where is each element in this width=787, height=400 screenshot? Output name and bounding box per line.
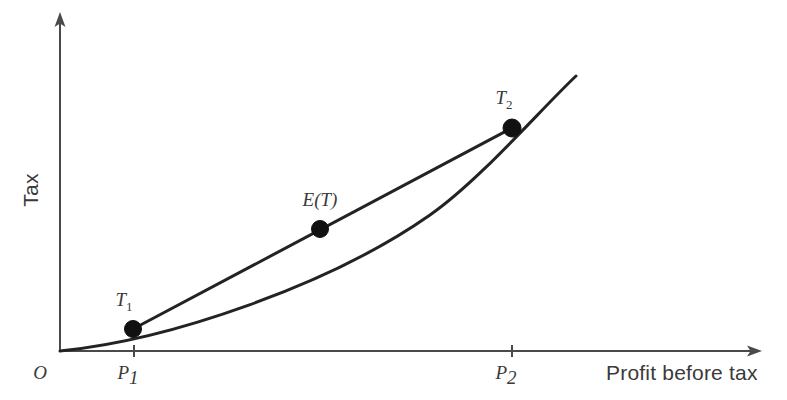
tick-label-p2-main: P [494, 362, 507, 383]
origin-label: O [33, 362, 47, 383]
point-t1-marker [125, 321, 142, 338]
label-et-main: E(T) [302, 189, 338, 211]
label-t2-sub: 2 [506, 97, 513, 112]
axis-tick-labels: O P1 P2 [33, 362, 517, 388]
tick-label-p2: P2 [494, 362, 517, 388]
label-t1: T1 [115, 289, 132, 314]
y-axis-title: Tax [19, 173, 42, 207]
figure-root: T1 E(T) T2 O P1 P2 Tax Profit before tax [0, 0, 787, 400]
tick-label-p1-sub: 1 [129, 367, 139, 388]
axis-titles: Tax Profit before tax [19, 173, 758, 384]
tick-label-p2-sub: 2 [507, 367, 517, 388]
tick-label-p1: P1 [116, 362, 138, 388]
tax-profit-diagram: T1 E(T) T2 O P1 P2 Tax Profit before tax [0, 0, 787, 400]
label-t2: T2 [495, 87, 512, 112]
x-axis-title: Profit before tax [606, 361, 758, 384]
point-t2-marker [503, 119, 521, 137]
label-t1-sub: 1 [126, 299, 133, 314]
y-axis-group [55, 12, 66, 351]
tick-label-p1-main: P [116, 362, 129, 383]
data-point-markers [125, 119, 522, 338]
point-et-marker [312, 221, 329, 238]
x-axis-group [60, 346, 762, 357]
tax-function-curve [60, 76, 576, 351]
label-et: E(T) [302, 189, 338, 211]
